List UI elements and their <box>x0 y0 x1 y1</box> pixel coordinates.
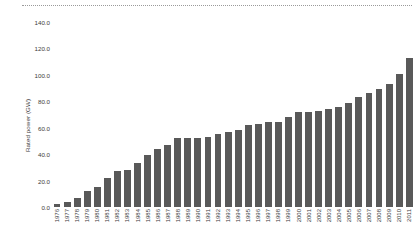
bar-slot <box>122 22 132 207</box>
bar[interactable] <box>325 109 332 207</box>
x-tick-slot: 2010 <box>394 208 404 247</box>
x-tick-label: 2007 <box>366 209 372 222</box>
bar-slot <box>314 22 324 207</box>
y-tick-label: 80.0 <box>24 98 50 105</box>
bar-slot <box>263 22 273 207</box>
x-tick-label: 2005 <box>346 209 352 222</box>
x-tick-slot: 1979 <box>82 208 92 247</box>
bar-slot <box>133 22 143 207</box>
bar-slot <box>374 22 384 207</box>
bar[interactable] <box>54 204 61 207</box>
bar[interactable] <box>225 132 232 207</box>
x-tick-slot: 1985 <box>143 208 153 247</box>
x-tick-label: 1993 <box>225 209 231 222</box>
bar[interactable] <box>386 84 393 207</box>
bar-slot <box>52 22 62 207</box>
x-tick-slot: 1978 <box>72 208 82 247</box>
y-tick-label: 120.0 <box>24 45 50 52</box>
bar[interactable] <box>174 138 181 207</box>
bar[interactable] <box>144 155 151 207</box>
bar[interactable] <box>285 117 292 207</box>
bar[interactable] <box>406 58 413 207</box>
x-tick-slot: 1997 <box>263 208 273 247</box>
bar[interactable] <box>355 97 362 207</box>
x-tick-slot: 1982 <box>112 208 122 247</box>
x-tick-label: 1977 <box>64 209 70 222</box>
x-tick-label: 1994 <box>235 209 241 222</box>
bar[interactable] <box>114 171 121 207</box>
x-tick-label: 1988 <box>175 209 181 222</box>
x-tick-slot: 1995 <box>243 208 253 247</box>
bar[interactable] <box>295 112 302 207</box>
x-tick-label: 2010 <box>396 209 402 222</box>
bar[interactable] <box>366 93 373 207</box>
bar-slot <box>344 22 354 207</box>
bar-slot <box>143 22 153 207</box>
x-tick-label: 1984 <box>135 209 141 222</box>
bar[interactable] <box>124 170 131 207</box>
bar[interactable] <box>265 122 272 207</box>
x-tick-slot: 1981 <box>102 208 112 247</box>
top-dotted-rule <box>22 5 412 6</box>
x-tick-label: 2011 <box>406 209 412 222</box>
x-tick-label: 1986 <box>155 209 161 222</box>
y-tick-label: 60.0 <box>24 124 50 131</box>
y-tick-label: 0.0 <box>24 204 50 211</box>
bar[interactable] <box>396 74 403 207</box>
bar[interactable] <box>94 187 101 207</box>
bar[interactable] <box>154 149 161 207</box>
bar[interactable] <box>376 89 383 207</box>
bar-slot <box>384 22 394 207</box>
x-tick-label: 1990 <box>195 209 201 222</box>
bar-slot <box>62 22 72 207</box>
x-tick-label: 1996 <box>255 209 261 222</box>
x-tick-slot: 2000 <box>294 208 304 247</box>
bar[interactable] <box>275 122 282 207</box>
x-tick-slot: 1984 <box>133 208 143 247</box>
bar-slot <box>173 22 183 207</box>
bar[interactable] <box>345 103 352 207</box>
bar[interactable] <box>164 145 171 207</box>
plot-area <box>52 22 414 207</box>
x-tick-label: 2003 <box>326 209 332 222</box>
bar-slot <box>203 22 213 207</box>
x-tick-label: 1997 <box>265 209 271 222</box>
bar[interactable] <box>205 137 212 207</box>
bar-slot <box>364 22 374 207</box>
bar[interactable] <box>315 111 322 207</box>
bar[interactable] <box>134 163 141 207</box>
bar[interactable] <box>245 125 252 207</box>
x-tick-slot: 2009 <box>384 208 394 247</box>
bar[interactable] <box>104 178 111 207</box>
bar[interactable] <box>235 130 242 207</box>
x-tick-slot: 2004 <box>334 208 344 247</box>
bar[interactable] <box>64 202 71 207</box>
y-tick-label: 20.0 <box>24 177 50 184</box>
x-tick-label: 1980 <box>94 209 100 222</box>
bar[interactable] <box>335 107 342 207</box>
y-axis-ticks: 140.0120.0100.080.060.040.020.00.0 <box>24 0 50 247</box>
bar-slot <box>354 22 364 207</box>
y-tick-label: 100.0 <box>24 71 50 78</box>
bar[interactable] <box>215 134 222 207</box>
x-tick-slot: 1998 <box>273 208 283 247</box>
x-tick-slot: 1993 <box>223 208 233 247</box>
bar-slot <box>223 22 233 207</box>
x-tick-slot: 2007 <box>364 208 374 247</box>
bar[interactable] <box>255 124 262 207</box>
bar-slot <box>294 22 304 207</box>
bar-slot <box>112 22 122 207</box>
bar-slot <box>304 22 314 207</box>
bar-slot <box>193 22 203 207</box>
bar[interactable] <box>305 112 312 207</box>
bar[interactable] <box>184 138 191 207</box>
bar-slot <box>153 22 163 207</box>
bar-slot <box>253 22 263 207</box>
bar-slot <box>163 22 173 207</box>
bar[interactable] <box>74 198 81 207</box>
bar[interactable] <box>84 191 91 207</box>
bar-slot <box>243 22 253 207</box>
x-tick-slot: 1996 <box>253 208 263 247</box>
y-tick-label: 40.0 <box>24 151 50 158</box>
bar[interactable] <box>194 138 201 207</box>
